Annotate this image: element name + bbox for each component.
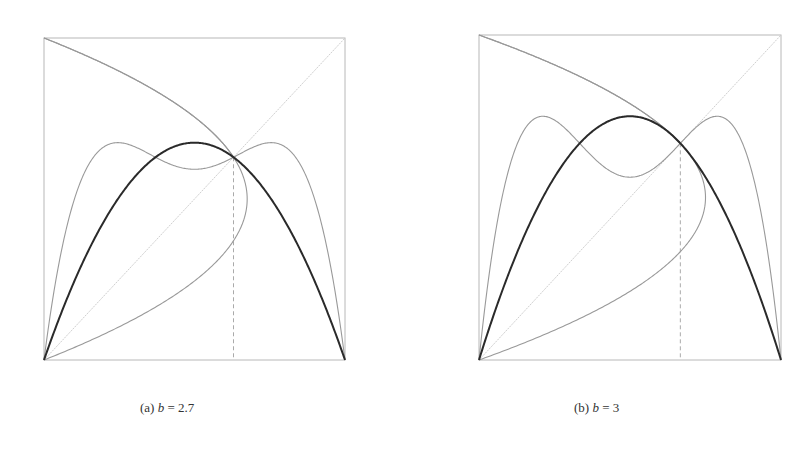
caption-value: 3	[613, 400, 620, 415]
figure-canvas	[0, 0, 808, 456]
caption-param: b	[592, 400, 599, 415]
caption-eq: =	[167, 400, 174, 415]
diagonal-line	[44, 38, 345, 360]
upper-inverse-curve	[44, 38, 234, 157]
inverse-branch-curve	[479, 35, 706, 360]
caption-eq: =	[602, 400, 609, 415]
logistic-map-curve	[44, 143, 345, 360]
caption-label: (a)	[140, 400, 154, 415]
diagonal-line	[479, 35, 781, 360]
caption-panel-a: (a) b = 2.7	[140, 400, 194, 416]
caption-panel-b: (b) b = 3	[574, 400, 619, 416]
caption-param: b	[158, 400, 165, 415]
upper-inverse-curve	[479, 35, 680, 143]
caption-value: 2.7	[178, 400, 194, 415]
logistic-map-curve	[479, 116, 781, 360]
caption-label: (b)	[574, 400, 589, 415]
